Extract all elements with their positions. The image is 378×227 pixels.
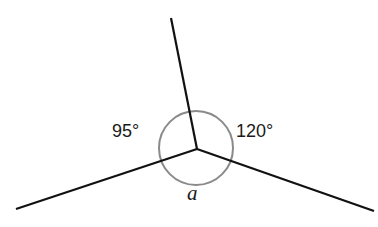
label-120-degrees: 120° (236, 121, 273, 141)
ray-right (197, 149, 374, 211)
ray-up (171, 18, 197, 149)
label-angle-a: a (187, 181, 198, 205)
angle-diagram: 95° 120° a (0, 0, 378, 227)
label-95-degrees: 95° (112, 121, 139, 141)
ray-left (16, 149, 197, 209)
